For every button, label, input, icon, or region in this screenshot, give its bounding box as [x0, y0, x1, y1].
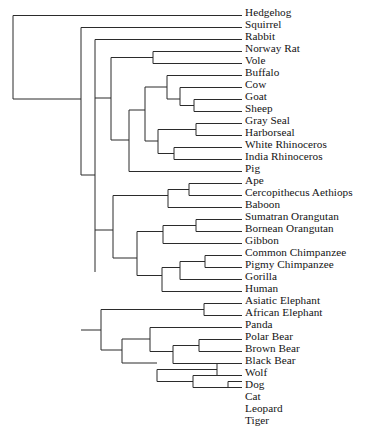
leaf-label-ape: Ape — [245, 175, 264, 186]
leaf-label-pig: Pig — [245, 163, 260, 174]
leaf-label-brown-bear: Brown Bear — [245, 343, 300, 354]
leaf-label-pigmy-chimpanzee: Pigmy Chimpanzee — [245, 259, 334, 270]
leaf-label-goat: Goat — [245, 91, 267, 102]
leaf-label-norway-rat: Norway Rat — [245, 43, 300, 54]
leaf-label-india-rhinoceros: India Rhinoceros — [245, 151, 323, 162]
leaf-label-sumatran-orangutan: Sumatran Orangutan — [245, 211, 339, 222]
leaf-label-gray-seal: Gray Seal — [245, 115, 290, 126]
leaf-label-gorilla: Gorilla — [245, 271, 277, 282]
leaf-label-vole: Vole — [245, 55, 266, 66]
leaf-label-baboon: Baboon — [245, 199, 280, 210]
leaf-label-black-bear: Black Bear — [245, 355, 296, 366]
leaf-label-polar-bear: Polar Bear — [245, 331, 293, 342]
leaf-label-gibbon: Gibbon — [245, 235, 279, 246]
leaf-label-common-chimpanzee: Common Chimpanzee — [245, 247, 346, 258]
leaf-label-dog: Dog — [245, 379, 264, 390]
leaf-label-hedgehog: Hedgehog — [245, 7, 291, 18]
leaf-label-harborseal: Harborseal — [245, 127, 295, 138]
leaf-label-cow: Cow — [245, 79, 266, 90]
leaf-label-human: Human — [245, 283, 278, 294]
leaf-label-cercopithecus-aethiops: Cercopithecus Aethiops — [245, 187, 353, 198]
leaf-label-african-elephant: African Elephant — [245, 307, 323, 318]
leaf-label-wolf: Wolf — [245, 367, 267, 378]
leaf-label-bornean-orangutan: Bornean Orangutan — [245, 223, 334, 234]
leaf-label-white-rhinoceros: White Rhinoceros — [245, 139, 327, 150]
leaf-label-panda: Panda — [245, 319, 273, 330]
leaf-label-buffalo: Buffalo — [245, 67, 279, 78]
leaf-label-sheep: Sheep — [245, 103, 273, 114]
leaf-label-squirrel: Squirrel — [245, 19, 281, 30]
leaf-label-rabbit: Rabbit — [245, 31, 275, 42]
leaf-label-leopard: Leopard — [245, 403, 283, 414]
leaf-label-tiger: Tiger — [245, 415, 269, 426]
leaf-label-asiatic-elephant: Asiatic Elephant — [245, 295, 320, 306]
leaf-label-cat: Cat — [245, 391, 261, 402]
